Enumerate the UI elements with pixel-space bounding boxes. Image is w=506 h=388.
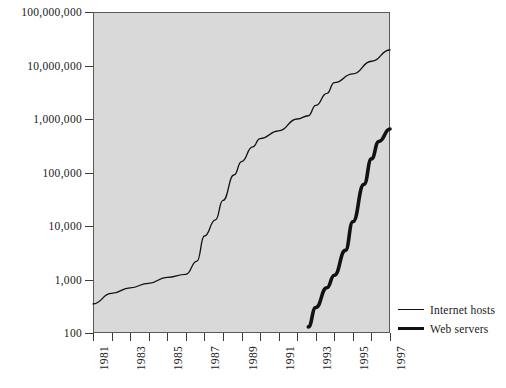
chart-root: 100,000,00010,000,0001,000,000100,00010,… [0,0,506,388]
legend-item-web-servers: Web servers [398,319,495,338]
series-line-web-servers [308,129,390,327]
chart-legend: Internet hosts Web servers [398,300,495,338]
legend-label-web-servers: Web servers [430,323,488,335]
legend-swatch-thick-line-icon [398,327,424,330]
legend-label-internet-hosts: Internet hosts [430,304,495,316]
series-line-internet-hosts [93,50,390,304]
legend-swatch-thin-line-icon [398,309,424,310]
legend-item-internet-hosts: Internet hosts [398,300,495,319]
